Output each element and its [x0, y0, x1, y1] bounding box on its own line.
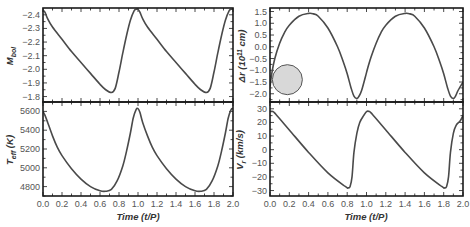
plot-teff: 480050005200540056000.00.20.40.60.81.01.…	[20, 102, 239, 209]
x-tick-label: 1.2	[380, 199, 393, 209]
x-tick-label: 0.4	[75, 199, 88, 209]
x-tick-label: 0.6	[94, 199, 107, 209]
plot-frame	[43, 8, 233, 102]
ylabel-teff: Teff (K)	[4, 135, 17, 165]
y-tick-label: 30	[257, 104, 267, 114]
figure-canvas: −2.4−2.3−2.2−2.1−2.0−1.9−1.8 48005000520…	[0, 0, 470, 227]
x-tick-label: 0.6	[322, 199, 335, 209]
ylabel-vr: Vr (km/s)	[234, 130, 247, 170]
y-tick-label: −2.0	[249, 89, 267, 99]
data-curve	[43, 9, 233, 92]
y-tick-label: −1.0	[249, 65, 267, 75]
x-tick-label: 1.4	[399, 199, 412, 209]
xlabel-left: Time (t/P)	[116, 211, 159, 222]
y-tick-label: 5400	[20, 125, 40, 135]
x-tick-label: 2.0	[457, 199, 470, 209]
y-tick-label: 1.5	[254, 7, 267, 17]
y-tick-label: 4800	[20, 182, 40, 192]
y-tick-label: 1.0	[254, 18, 267, 28]
x-tick-label: 0.0	[37, 199, 50, 209]
y-tick-label: −0.5	[249, 54, 267, 64]
y-tick-label: −1.5	[249, 77, 267, 87]
x-tick-label: 1.2	[151, 199, 164, 209]
x-tick-label: 0.8	[113, 199, 126, 209]
y-tick-label: 5000	[20, 163, 40, 173]
star-size-circle	[272, 65, 302, 95]
data-curve	[43, 108, 233, 191]
xlabel-right: Time (t/P)	[344, 211, 387, 222]
x-tick-label: 0.8	[341, 199, 354, 209]
x-tick-label: 1.8	[208, 199, 221, 209]
y-tick-label: 5600	[20, 106, 40, 116]
y-tick-label: 20	[257, 117, 267, 127]
y-tick-label: −20	[252, 172, 267, 182]
x-tick-label: 1.8	[437, 199, 450, 209]
y-tick-label: −1.9	[22, 78, 40, 88]
x-tick-label: 1.6	[418, 199, 431, 209]
x-tick-label: 0.0	[264, 199, 277, 209]
y-tick-label: −2.3	[22, 23, 40, 33]
x-tick-label: 1.6	[189, 199, 202, 209]
y-tick-label: 0	[262, 145, 267, 155]
y-tick-label: −30	[252, 186, 267, 196]
x-tick-label: 2.0	[227, 199, 240, 209]
y-tick-label: −2.0	[22, 64, 40, 74]
plot-delta-r: 1.51.00.50.0−0.5−1.0−1.5−2.0	[249, 7, 463, 102]
x-tick-label: 0.4	[302, 199, 315, 209]
y-tick-label: −1.8	[22, 92, 40, 102]
y-tick-label: −2.2	[22, 37, 40, 47]
plot-frame	[43, 102, 233, 196]
plot-vr: 3020100−10−20−300.00.20.40.60.81.01.21.4…	[252, 102, 470, 209]
x-tick-label: 1.4	[170, 199, 183, 209]
x-tick-label: 1.0	[132, 199, 145, 209]
x-tick-label: 0.2	[56, 199, 69, 209]
y-tick-label: 0.5	[254, 30, 267, 40]
y-tick-label: 10	[257, 131, 267, 141]
ylabel-delta-r: Δr (1011 cm)	[236, 30, 247, 84]
plot-mbol: −2.4−2.3−2.2−2.1−2.0−1.9−1.8	[22, 8, 233, 102]
y-tick-label: −10	[252, 158, 267, 168]
x-tick-label: 1.0	[360, 199, 373, 209]
y-tick-label: 0.0	[254, 42, 267, 52]
y-tick-label: −2.1	[22, 51, 40, 61]
data-curve	[270, 111, 463, 188]
y-tick-label: 5200	[20, 144, 40, 154]
plot-frame	[270, 102, 463, 196]
y-tick-label: −2.4	[22, 10, 40, 20]
x-tick-label: 0.2	[283, 199, 296, 209]
ylabel-mbol: Mbol	[4, 46, 17, 65]
